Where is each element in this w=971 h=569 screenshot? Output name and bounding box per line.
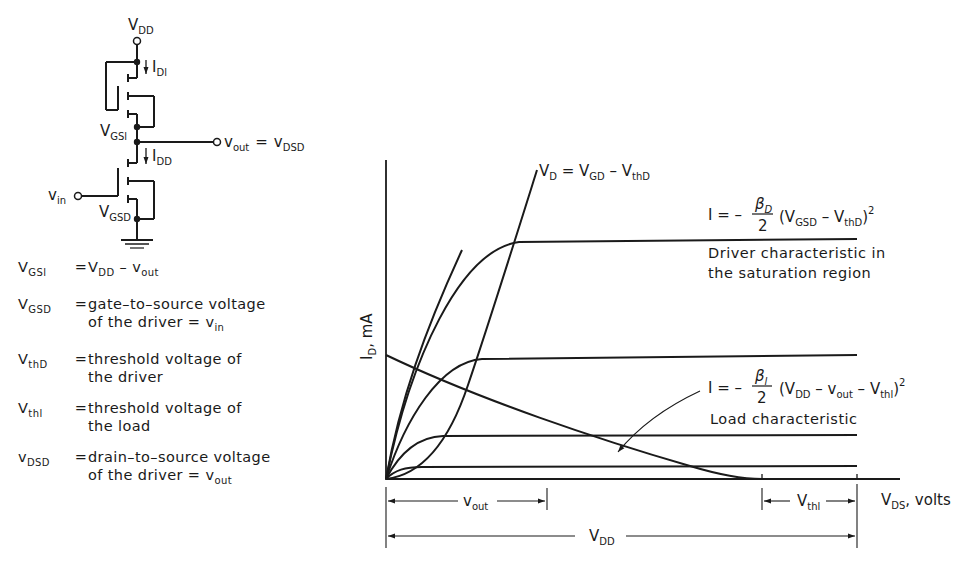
vdd-label: VDD: [128, 16, 154, 36]
vin-label: vin: [48, 186, 66, 206]
saturation-boundary-label: VD = VGD – VthD: [539, 162, 650, 182]
svg-text:(VGSD – VthD)2: (VGSD – VthD)2: [779, 205, 874, 228]
circuit-labels: VDD IDl VGSl vout=vDSD IDD vin VGSD: [48, 16, 305, 223]
load-note: Load characteristic: [710, 411, 858, 427]
svg-text:I = –: I = –: [708, 379, 742, 397]
definition-item: VGSD = gate–to–source voltageof the driv…: [18, 295, 298, 337]
definition-desc: threshold voltage ofthe driver: [88, 350, 298, 386]
svg-text:2: 2: [758, 217, 768, 235]
dim-vout-label: vout: [463, 492, 488, 512]
vout-label: vout=vDSD: [224, 133, 305, 153]
svg-text:βl: βl: [754, 367, 768, 387]
svg-text:(VDD – vout – Vthl)2: (VDD – vout – Vthl)2: [779, 377, 905, 400]
definition-desc: gate–to–source voltageof the driver = vi…: [88, 295, 298, 337]
load-current-label: IDl: [152, 58, 167, 78]
definition-desc: drain–to–source voltageof the driver = v…: [88, 448, 298, 490]
dimension-lines: [386, 484, 857, 548]
dim-vdd-label: VDD: [589, 527, 615, 547]
driver-vgs-label: VGSD: [99, 203, 131, 223]
load-vgs-label: VGSl: [100, 122, 127, 142]
vin-terminal-icon: [75, 193, 82, 200]
load-equation: I = – βl 2 (VDD – vout – Vthl)2: [708, 367, 905, 407]
ground-icon: [121, 240, 153, 248]
driver-curve-4: [386, 466, 857, 479]
y-axis-label: ID, mA: [358, 313, 378, 360]
load-leader-arrow: [618, 391, 700, 452]
graph-labels: ID, mA VDS, volts VD = VGD – VthD I = – …: [358, 162, 951, 547]
svg-text:I = –: I = –: [708, 206, 742, 224]
vdd-terminal-icon: [134, 38, 141, 45]
driver-note-line1: Driver characteristic in: [708, 245, 886, 261]
driver-note-line2: the saturation region: [708, 265, 871, 281]
load-characteristic-curve: [386, 355, 762, 479]
x-axis-label: VDS, volts: [881, 491, 951, 511]
definition-item: Vthl = threshold voltage ofthe load: [18, 399, 298, 435]
svg-text:2: 2: [757, 389, 767, 407]
definition-desc: VDD – vout: [88, 258, 298, 282]
symbol-definitions: VGSl = VDD – vout VGSD = gate–to–source …: [18, 258, 298, 503]
vout-terminal-icon: [214, 139, 221, 146]
circuit-schematic: [75, 38, 221, 249]
steep-curve: [386, 250, 462, 479]
definition-item: VGSl = VDD – vout: [18, 258, 298, 282]
driver-current-label: IDD: [152, 147, 172, 167]
definition-item: vDSD = drain–to–source voltageof the dri…: [18, 448, 298, 490]
driver-equation: I = – βD 2 (VGSD – VthD)2: [708, 195, 874, 235]
definition-desc: threshold voltage ofthe load: [88, 399, 298, 435]
svg-text:βD: βD: [754, 195, 773, 215]
saturation-boundary-curve: [386, 170, 537, 479]
definition-item: VthD = threshold voltage ofthe driver: [18, 350, 298, 386]
dim-vthl-label: Vthl: [797, 492, 820, 512]
driver-curve-3: [386, 435, 857, 479]
